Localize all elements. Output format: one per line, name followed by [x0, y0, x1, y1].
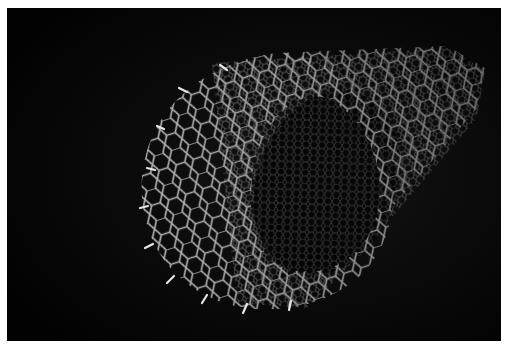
nanotube-illustration: [7, 8, 501, 341]
nanotube-image: [7, 8, 501, 341]
